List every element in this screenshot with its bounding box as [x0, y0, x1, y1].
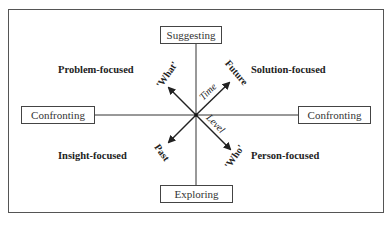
problem-focused-label: Problem-focused [58, 64, 134, 75]
person-focused-label: Person-focused [251, 150, 319, 161]
what-arrow [169, 88, 196, 115]
past-arrow [169, 115, 196, 142]
origin-dot [194, 113, 198, 117]
confronting-right-box: Confronting [298, 106, 371, 124]
exploring-box: Exploring [160, 185, 233, 203]
insight-focused-label: Insight-focused [58, 150, 127, 161]
solution-focused-label: Solution-focused [251, 64, 326, 75]
suggesting-box: Suggesting [160, 26, 222, 44]
confronting-left-box: Confronting [21, 106, 95, 124]
